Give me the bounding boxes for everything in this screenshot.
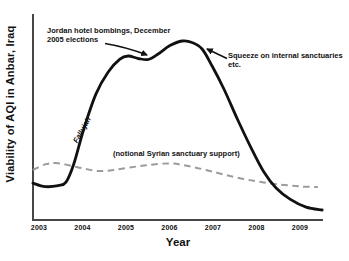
jordan-annotation-arrow [105, 44, 147, 56]
jordan-annotation-line1: Jordan hotel bombings, December [47, 26, 170, 35]
squeeze-annotation-line1: Squeeze on internal sanctuaries [228, 51, 343, 60]
squeeze-annotation-arrow [207, 49, 227, 59]
viability-chart: Viability of AQI in Anbar, Iraq Year 200… [0, 0, 349, 261]
jordan-annotation-line2: 2005 elections [47, 35, 170, 44]
tick-2006: 2006 [153, 224, 187, 231]
tick-2004: 2004 [66, 224, 100, 231]
tick-2003: 2003 [22, 224, 56, 231]
squeeze-annotation-line2: etc. [228, 60, 343, 69]
syrian-support-label: (notional Syrian sanctuary support) [113, 149, 240, 158]
tick-2007: 2007 [196, 224, 230, 231]
tick-2008: 2008 [240, 224, 274, 231]
syrian-support-line [33, 163, 318, 187]
jordan-annotation: Jordan hotel bombings, December 2005 ele… [47, 26, 170, 44]
y-axis-title: Viability of AQI in Anbar, Iraq [4, 26, 16, 183]
squeeze-annotation: Squeeze on internal sanctuaries etc. [228, 51, 343, 69]
x-axis-title: Year [166, 236, 190, 248]
tick-2009: 2009 [283, 224, 317, 231]
tick-2005: 2005 [109, 224, 143, 231]
